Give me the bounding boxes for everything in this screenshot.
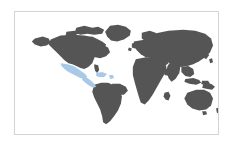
world-map-svg[interactable] bbox=[15, 12, 218, 134]
map-frame-border bbox=[14, 11, 219, 135]
world-map-widget bbox=[0, 0, 233, 145]
